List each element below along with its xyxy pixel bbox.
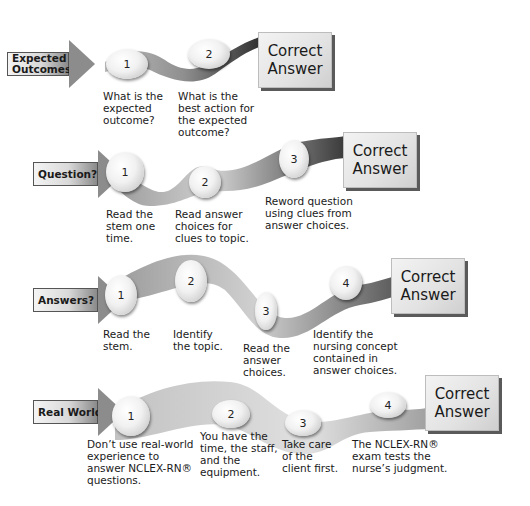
step-stone-1: 1	[105, 275, 137, 315]
arrow-icon	[69, 40, 95, 88]
correct-answer-box: Correct Answer	[258, 32, 332, 88]
step-stone-2: 2	[212, 400, 250, 428]
step-stone-2: 2	[189, 166, 221, 198]
step-stone-1: 1	[112, 396, 150, 436]
row-label-expected-outcomes: Expected Outcomes	[7, 52, 69, 76]
step-text-2: You have the time, the staff, and the eq…	[200, 430, 278, 478]
step-text-1: Don’t use real-world experience to answe…	[87, 438, 193, 486]
flow-row-expected-outcomes: Expected Outcomes 1 2 Correct Answer Wha…	[0, 0, 530, 125]
step-text-2: Identify the topic.	[173, 328, 223, 352]
step-stone-3: 3	[285, 410, 321, 436]
flow-row-real-world: Real World 1 2 3 4 Correct Answer Don’t …	[0, 370, 530, 506]
step-text-3: Take care of the client first.	[282, 438, 338, 474]
flow-row-question: Question? 1 2 3 Correct Answer Read the …	[0, 120, 530, 240]
correct-answer-box: Correct Answer	[425, 375, 499, 431]
step-stone-1: 1	[106, 49, 148, 79]
step-stone-2: 2	[188, 39, 230, 69]
step-text-2: Read answer choices for clues to topic.	[175, 208, 249, 244]
step-stone-4: 4	[330, 266, 362, 300]
step-text-4: Identify the nursing concept contained i…	[313, 328, 398, 376]
step-text-4: The NCLEX-RN® exam tests the nurse’s jud…	[352, 438, 447, 474]
step-stone-3: 3	[255, 292, 277, 330]
row-label-real-world: Real World	[33, 400, 98, 424]
step-stone-1: 1	[106, 152, 144, 192]
step-text-3: Reword question using clues from answer …	[265, 195, 353, 231]
step-stone-2: 2	[175, 260, 207, 302]
row-label-question: Question?	[33, 162, 98, 186]
step-text-1: Read the stem.	[103, 328, 150, 352]
flow-row-answers: Answers? 1 2 3 4 Correct Answer Read the…	[0, 240, 530, 370]
row-label-answers: Answers?	[33, 288, 98, 312]
correct-answer-box: Correct Answer	[391, 258, 465, 314]
step-stone-4: 4	[370, 392, 406, 418]
step-text-1: Read the stem one time.	[106, 208, 155, 244]
correct-answer-box: Correct Answer	[343, 132, 417, 188]
step-stone-3: 3	[279, 140, 309, 178]
